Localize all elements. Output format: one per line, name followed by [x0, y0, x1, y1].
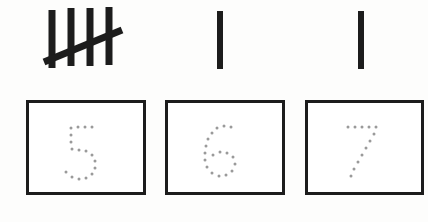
tally-group-one-a: Tally mark showing one — [212, 0, 232, 90]
worksheet-page: Tally marks showing five Tally mark show… — [0, 0, 428, 222]
tally-group-one-b-label: Tally mark showing one — [352, 90, 353, 91]
tally-group-one-b: Tally mark showing one — [352, 0, 372, 90]
dotted-numeral-5-icon — [29, 103, 143, 192]
tally-group-five: Tally marks showing five — [38, 0, 138, 90]
trace-box-six[interactable]: Tracing box with dotted numeral 6 — [165, 100, 285, 195]
tally-five-icon — [38, 0, 138, 90]
tally-one-icon — [212, 0, 232, 90]
trace-box-seven[interactable]: Tracing box with dotted numeral 7 — [305, 100, 424, 195]
tally-one-icon — [352, 0, 372, 90]
trace-box-five[interactable]: Tracing box with dotted numeral 5 — [26, 100, 146, 195]
dotted-numeral-6-icon — [168, 103, 282, 192]
tally-group-one-a-label: Tally mark showing one — [212, 90, 213, 91]
tally-group-five-label: Tally marks showing five — [38, 90, 39, 91]
dotted-numeral-7-icon — [308, 103, 421, 192]
